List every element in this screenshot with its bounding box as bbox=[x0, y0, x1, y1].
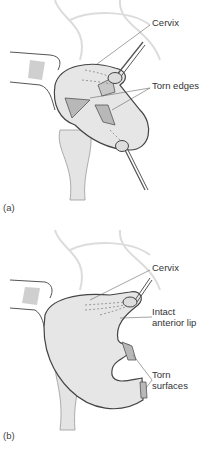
panel-b: Cervix Intact anterior lip Torn surfaces… bbox=[0, 230, 219, 453]
panel-a: Cervix Torn edges (a) bbox=[0, 0, 219, 230]
cervix-intact-lip-illustration bbox=[0, 230, 219, 453]
label-intact-line1: Intact bbox=[152, 307, 175, 318]
label-cervix-a: Cervix bbox=[152, 18, 179, 29]
label-intact-line2: anterior lip bbox=[152, 318, 196, 329]
panel-label-b: (b) bbox=[3, 430, 15, 441]
label-torn-edges: Torn edges bbox=[152, 81, 199, 92]
label-torn-line2: surfaces bbox=[152, 381, 188, 392]
label-torn-line1: Torn bbox=[152, 370, 170, 381]
label-cervix-b: Cervix bbox=[152, 263, 179, 274]
cervix-torn-illustration bbox=[0, 0, 219, 230]
panel-label-a: (a) bbox=[3, 202, 15, 213]
